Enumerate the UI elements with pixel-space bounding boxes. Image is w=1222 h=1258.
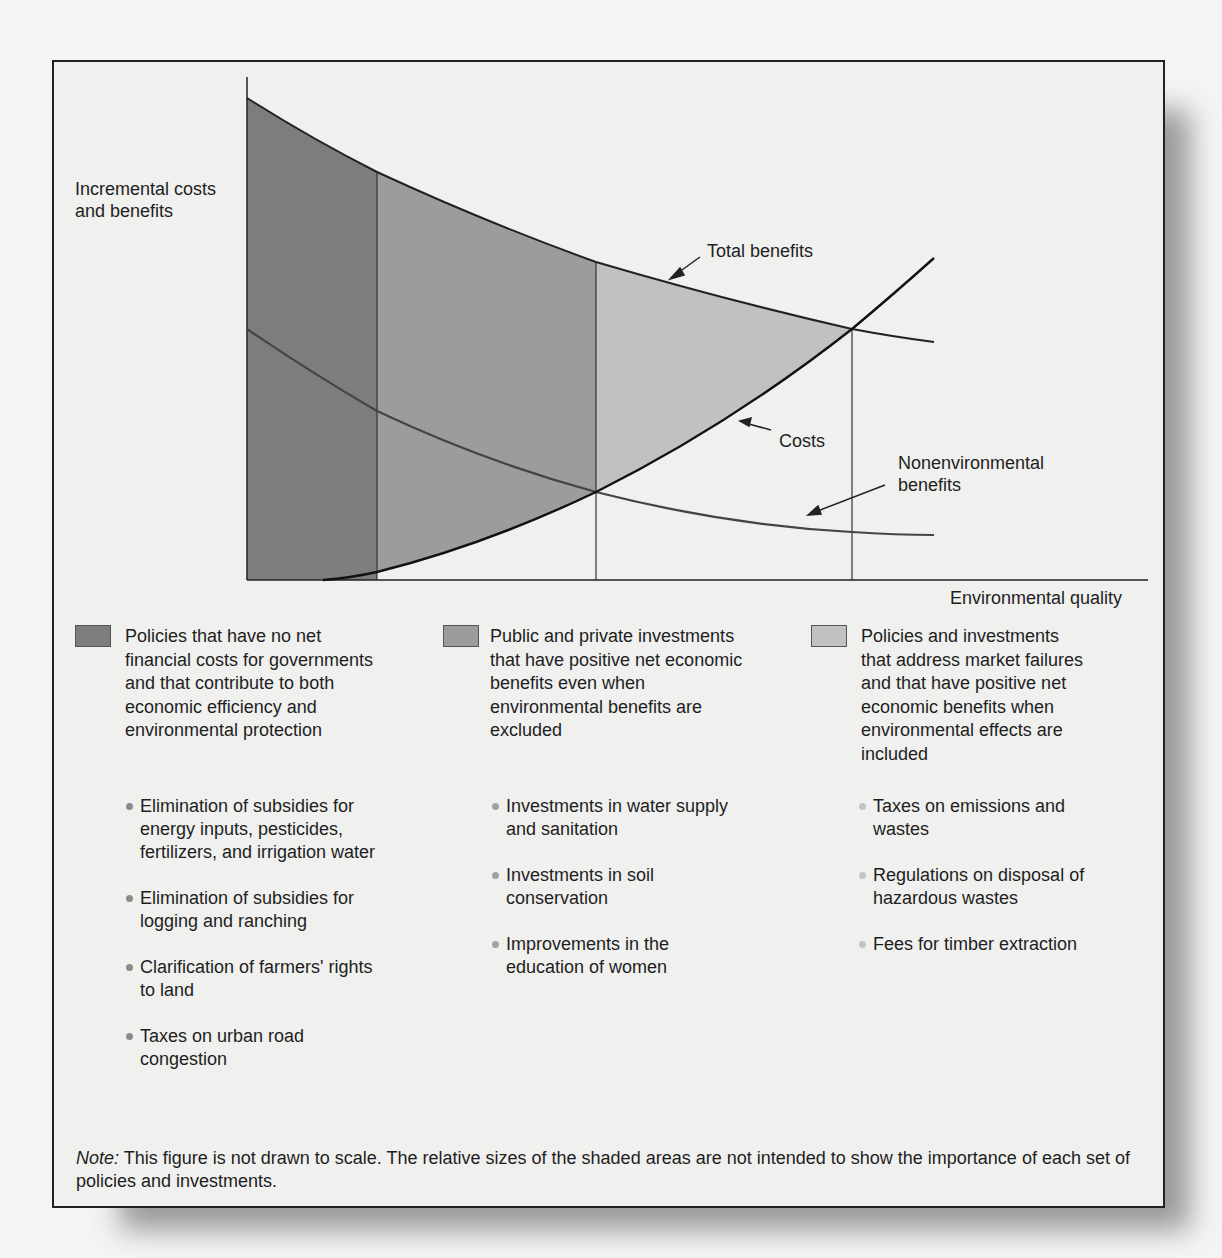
shaded-region-3 bbox=[596, 262, 852, 492]
list-item: Elimination of subsidies for energy inpu… bbox=[126, 795, 375, 864]
total-benefits-arrow-icon bbox=[670, 257, 700, 279]
shaded-region-2 bbox=[377, 172, 596, 572]
bullet-icon bbox=[859, 872, 866, 879]
legend-2-examples: Investments in water supply and sanitati… bbox=[492, 795, 728, 1002]
list-item: Regulations on disposal of hazardous was… bbox=[859, 864, 1084, 910]
shaded-region-1 bbox=[247, 98, 377, 580]
legend-swatch-3 bbox=[811, 625, 847, 647]
bullet-icon bbox=[492, 941, 499, 948]
costs-label: Costs bbox=[779, 430, 825, 452]
legend-label-2: Public and private investments that have… bbox=[490, 625, 742, 743]
bullet-icon bbox=[126, 1033, 133, 1040]
bullet-icon bbox=[126, 803, 133, 810]
y-axis-label: Incremental costs and benefits bbox=[75, 178, 216, 222]
legend-label-1: Policies that have no net financial cost… bbox=[125, 625, 373, 743]
legend-swatch-1 bbox=[75, 625, 111, 647]
nonenvironmental-benefits-arrow-icon bbox=[808, 485, 885, 515]
costs-arrow-icon bbox=[740, 418, 771, 430]
list-item: Investments in soil conservation bbox=[492, 864, 728, 910]
list-item: Taxes on emissions and wastes bbox=[859, 795, 1084, 841]
bullet-icon bbox=[859, 941, 866, 948]
note-prefix: Note: bbox=[76, 1148, 119, 1168]
bullet-icon bbox=[126, 895, 133, 902]
x-axis-label: Environmental quality bbox=[950, 588, 1122, 609]
list-item: Fees for timber extraction bbox=[859, 933, 1084, 956]
list-item: Investments in water supply and sanitati… bbox=[492, 795, 728, 841]
bullet-icon bbox=[492, 872, 499, 879]
legend-3-examples: Taxes on emissions and wastes Regulation… bbox=[859, 795, 1084, 979]
bullet-icon bbox=[492, 803, 499, 810]
legend-1-examples: Elimination of subsidies for energy inpu… bbox=[126, 795, 375, 1094]
bullet-icon bbox=[859, 803, 866, 810]
legend-label-3: Policies and investments that address ma… bbox=[861, 625, 1083, 766]
list-item: Taxes on urban road congestion bbox=[126, 1025, 375, 1071]
bullet-icon bbox=[126, 964, 133, 971]
legend-swatch-2 bbox=[443, 625, 479, 647]
note-text: This figure is not drawn to scale. The r… bbox=[76, 1148, 1130, 1191]
nonenvironmental-benefits-label: Nonenvironmental benefits bbox=[898, 452, 1044, 496]
list-item: Elimination of subsidies for logging and… bbox=[126, 887, 375, 933]
list-item: Improvements in the education of women bbox=[492, 933, 728, 979]
list-item: Clarification of farmers' rights to land bbox=[126, 956, 375, 1002]
total-benefits-label: Total benefits bbox=[707, 240, 813, 262]
figure-note: Note: This figure is not drawn to scale.… bbox=[76, 1147, 1146, 1193]
